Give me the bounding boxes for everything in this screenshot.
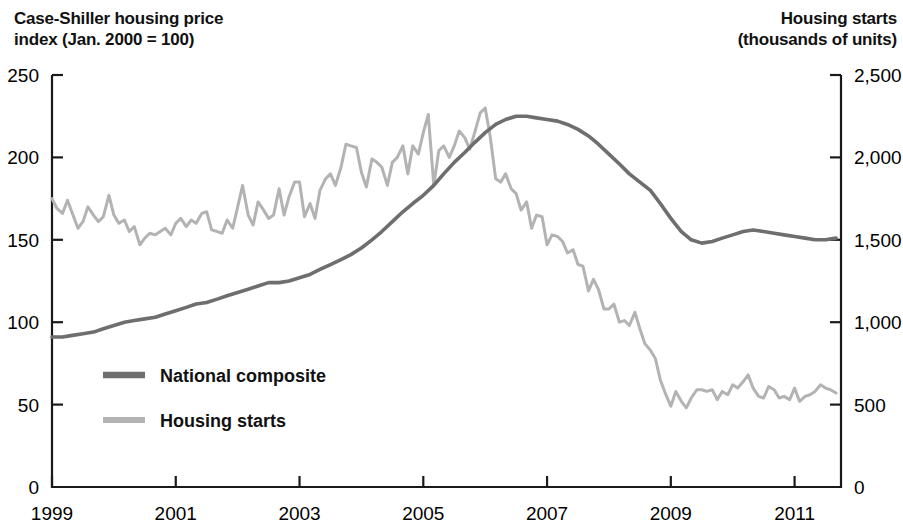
x-tick-label: 2003 [278,503,320,524]
x-tick-label: 2001 [155,503,197,524]
series-lines [52,108,836,408]
right-tick-label: 0 [854,477,865,498]
right-tick-label: 1,000 [854,312,902,333]
x-tick-label: 1999 [31,503,73,524]
chart-figure: Case-Shiller housing price index (Jan. 2… [0,0,903,532]
x-tick-label: 2007 [526,503,568,524]
left-tick-label: 100 [7,312,39,333]
x-tick-label: 2009 [650,503,692,524]
legend-label: Housing starts [160,411,286,431]
chart-legend: National compositeHousing starts [103,366,326,431]
right-tick-label: 500 [854,395,886,416]
left-tick-label: 250 [7,65,39,86]
chart-plot-area: 050100150200250 05001,0001,5002,0002,500… [0,0,903,532]
right-tick-label: 2,500 [854,65,902,86]
x-tick-label: 2005 [402,503,444,524]
left-axis-tick-labels: 050100150200250 [7,65,39,498]
legend-label: National composite [160,366,326,386]
left-tick-label: 0 [28,477,39,498]
x-tick-label: 2011 [774,503,815,524]
x-axis-tick-labels: 1999200120032005200720092011 [31,503,815,524]
left-tick-label: 200 [7,147,39,168]
series-line-housing-starts [52,108,836,408]
left-tick-label: 50 [18,395,39,416]
right-tick-label: 2,000 [854,147,902,168]
right-axis-tick-labels: 05001,0001,5002,0002,500 [854,65,902,498]
left-tick-label: 150 [7,230,39,251]
right-tick-label: 1,500 [854,230,902,251]
